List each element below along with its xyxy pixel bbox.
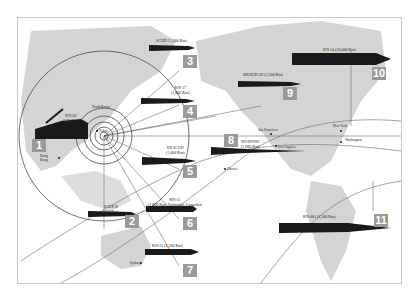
city-hong-kong: Hong Kong bbox=[40, 154, 56, 162]
label-kn-15: KN-15 (1,200 Km) bbox=[152, 244, 183, 249]
badge-1: 1 bbox=[32, 139, 46, 152]
city-sydney: Sydney bbox=[130, 261, 141, 265]
badge-10: 10 bbox=[372, 67, 386, 80]
label-kn-11: KN-11(1,000 Km) Submarine Launched bbox=[148, 198, 202, 207]
city-san-francisco: San Francisco bbox=[258, 128, 278, 132]
badge-9: 9 bbox=[283, 87, 297, 100]
badge-11: 11 bbox=[374, 214, 388, 227]
label-kn-08: KN-08 (11,500 Km) bbox=[303, 215, 336, 220]
label-no-dong: NO-DONG(1,800 Km) bbox=[241, 140, 260, 149]
badge-5: 5 bbox=[183, 165, 197, 178]
label-kn-14: KN-14 (10,000 Km) bbox=[323, 48, 356, 53]
label-scud-b: SCUD B(300 Km) bbox=[103, 205, 119, 214]
city-los-angeles: Los Angeles bbox=[278, 145, 295, 149]
map-graphic bbox=[18, 18, 401, 283]
label-scud-c: SCUD C (500 Km) bbox=[156, 39, 187, 44]
badge-7: 7 bbox=[183, 264, 197, 277]
city-tokyo: Tokyo bbox=[99, 129, 108, 133]
missile-range-map: 1 2 3 4 5 6 7 8 9 10 11 KN-02(120 Km) SC… bbox=[17, 17, 402, 284]
city-new-york: New York bbox=[333, 124, 347, 128]
city-washington: Washington bbox=[345, 138, 362, 142]
label-kn-02: KN-02(120 Km) bbox=[63, 114, 79, 123]
label-north-korea: North Korea bbox=[92, 105, 110, 109]
badge-8: 8 bbox=[224, 134, 238, 147]
label-musudan: MUSUDAN (3,500 Km) bbox=[243, 73, 283, 78]
city-hawaii: Hawaii bbox=[227, 167, 237, 171]
badge-6: 6 bbox=[183, 217, 197, 230]
label-kn-17: KN-17(1,000 Km) bbox=[171, 86, 190, 95]
badge-3: 3 bbox=[183, 55, 197, 68]
badge-2: 2 bbox=[125, 215, 139, 228]
label-er-scud: ER SCUD(1,000 Km) bbox=[166, 146, 185, 155]
badge-4: 4 bbox=[183, 105, 197, 118]
